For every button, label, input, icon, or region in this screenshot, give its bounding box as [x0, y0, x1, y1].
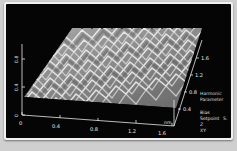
scan-header: Harmonic Parameter	[200, 91, 224, 102]
y-tick-1: 0.8	[189, 89, 197, 95]
z-axis-tick-labels: 0 0.4 0.8	[14, 56, 19, 117]
corner-unit-label: nm	[164, 120, 172, 125]
z-tick-0: 0	[14, 114, 19, 117]
scan-parameter-row: XY	[200, 128, 206, 133]
screenshot-root: 0 0.4 0.8 1.2 1.6 1.6 1.2 0.8	[0, 0, 237, 151]
surface-plot-svg: 0 0.4 0.8 1.2 1.6 1.6 1.2 0.8	[6, 4, 231, 138]
scan-parameter-row: Z	[200, 122, 203, 127]
y-tick-2: 1.2	[195, 72, 203, 78]
x-tick-1: 0.4	[52, 123, 60, 129]
x-tick-3: 1.2	[128, 128, 136, 134]
scan-parameter-row: Setpoint 5.	[200, 116, 227, 121]
param-name-xy: XY	[200, 128, 206, 133]
y-tick-0: 0.4	[183, 106, 191, 112]
param-name-setpoint: Setpoint	[200, 116, 219, 121]
x-tick-4: 1.6	[158, 130, 166, 136]
x-tick-2: 0.8	[90, 126, 98, 132]
scan-header-line1: Harmonic	[200, 91, 222, 96]
scan-header-line2: Parameter	[200, 97, 224, 102]
x-tick-0: 0	[19, 120, 22, 126]
param-name-bias: Bias	[200, 110, 210, 115]
scan-parameter-list: Bias Setpoint 5. Z XY	[200, 110, 227, 133]
z-tick-2: 0.8	[14, 56, 19, 63]
param-value-setpoint: 5.	[223, 116, 227, 121]
param-name-z: Z	[200, 122, 203, 127]
scan-parameter-row: Bias	[200, 110, 210, 115]
y-tick-3: 1.6	[201, 55, 209, 61]
plot-panel: 0 0.4 0.8 1.2 1.6 1.6 1.2 0.8	[6, 4, 231, 138]
z-tick-1: 0.4	[14, 84, 19, 91]
